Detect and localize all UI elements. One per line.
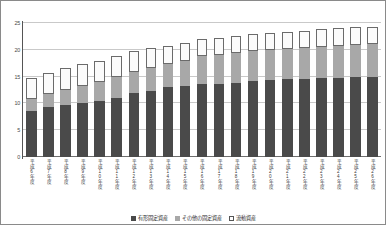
y-tick-label-15: 15: [2, 75, 20, 80]
bar-segment-tangible: [367, 77, 378, 157]
bar-segment-current: [316, 29, 327, 46]
bar-segment-current: [94, 61, 105, 82]
bar-0: [26, 78, 37, 157]
bar-segment-other: [367, 44, 378, 76]
bar-segment-tangible: [282, 79, 293, 157]
bar-segment-other: [43, 94, 54, 107]
chart-legend: 有形固定資産その他の固定資産流動資産: [1, 215, 385, 221]
bar-segment-current: [333, 28, 344, 46]
bar-segment-other: [282, 49, 293, 80]
bar-segment-tangible: [197, 84, 208, 157]
bar-segment-other: [316, 47, 327, 79]
bar-12: [231, 36, 242, 157]
bar-segment-current: [350, 27, 361, 45]
bar-segment-current: [43, 73, 54, 93]
bar-segment-current: [60, 68, 71, 90]
x-tick-label-10: 平成16年度: [199, 159, 204, 189]
bar-segment-tangible: [316, 78, 327, 157]
bar-segment-other: [350, 45, 361, 77]
bar-segment-tangible: [214, 84, 225, 157]
bar-1: [43, 73, 54, 157]
x-tick-label-17: 平成23年度: [319, 159, 324, 189]
bar-5: [111, 56, 122, 157]
legend-item-0: 有形固定資産: [131, 215, 168, 221]
bar-14: [265, 33, 276, 157]
bar-segment-current: [111, 56, 122, 77]
bar-segment-tangible: [333, 78, 344, 157]
bar-segment-current: [180, 43, 191, 61]
y-tick-label-5: 5: [2, 128, 20, 133]
x-tick-label-5: 平成11年度: [114, 159, 119, 189]
x-tick-label-3: 平成9年度: [80, 159, 85, 184]
bar-segment-current: [367, 27, 378, 45]
x-tick-label-13: 平成19年度: [251, 159, 256, 189]
bar-segment-tangible: [180, 86, 191, 157]
bar-segment-other: [180, 61, 191, 87]
x-tick-label-18: 平成24年度: [336, 159, 341, 189]
x-axis-tick-labels: 平成6年度平成7年度平成8年度平成9年度平成10年度平成11年度平成12年度平成…: [23, 158, 381, 204]
bar-segment-other: [94, 82, 105, 101]
x-tick-label-6: 平成12年度: [131, 159, 136, 189]
bar-8: [163, 46, 174, 157]
bar-16: [299, 31, 310, 157]
bar-segment-tangible: [60, 105, 71, 157]
bar-segment-tangible: [146, 91, 157, 157]
bar-6: [129, 51, 140, 157]
bar-segment-other: [111, 77, 122, 98]
bar-segment-other: [60, 90, 71, 105]
x-tick-label-19: 平成25年度: [353, 159, 358, 189]
bar-segment-current: [214, 38, 225, 55]
bar-segment-other: [214, 55, 225, 84]
bar-segment-tangible: [163, 87, 174, 157]
x-tick-label-20: 平成26年度: [370, 159, 375, 189]
bar-segment-other: [333, 46, 344, 78]
bar-13: [248, 34, 259, 157]
bar-9: [180, 43, 191, 157]
bar-segment-current: [163, 46, 174, 64]
bar-segment-current: [129, 51, 140, 72]
y-tick-label-10: 10: [2, 101, 20, 106]
bar-20: [367, 27, 378, 157]
bar-segment-other: [231, 53, 242, 82]
bar-segment-tangible: [129, 93, 140, 157]
bar-segment-current: [77, 64, 88, 86]
x-tick-label-15: 平成21年度: [285, 159, 290, 189]
bar-segment-current: [282, 32, 293, 49]
bar-segment-tangible: [77, 103, 88, 157]
bar-7: [146, 48, 157, 157]
legend-swatch-tangible: [131, 216, 136, 221]
bar-segment-tangible: [299, 79, 310, 157]
x-tick-label-4: 平成10年度: [97, 159, 102, 189]
x-tick-label-2: 平成8年度: [63, 159, 68, 184]
bar-10: [197, 39, 208, 157]
bar-segment-other: [146, 68, 157, 91]
y-tick-label-0: 0: [2, 155, 20, 160]
bar-11: [214, 38, 225, 158]
bar-segment-current: [26, 78, 37, 99]
bar-19: [350, 27, 361, 157]
bar-segment-tangible: [94, 101, 105, 157]
bar-segment-current: [248, 34, 259, 51]
x-tick-label-16: 平成22年度: [302, 159, 307, 189]
bar-segment-tangible: [265, 80, 276, 157]
legend-swatch-other: [175, 216, 180, 221]
x-tick-label-11: 平成17年度: [216, 159, 221, 189]
bar-2: [60, 68, 71, 157]
bar-segment-current: [197, 39, 208, 56]
bar-segment-tangible: [350, 77, 361, 157]
bar-segment-other: [77, 86, 88, 103]
bar-segment-tangible: [26, 111, 37, 157]
x-tick-label-1: 平成7年度: [46, 159, 51, 184]
bar-4: [94, 61, 105, 157]
legend-swatch-current: [229, 216, 234, 221]
bar-segment-other: [129, 72, 140, 93]
y-axis-tick-labels: 0510152025: [1, 23, 20, 157]
legend-label-1: その他の固定資産: [182, 215, 222, 221]
legend-label-2: 流動資産: [236, 215, 256, 221]
bar-segment-tangible: [43, 107, 54, 157]
bar-segment-current: [146, 48, 157, 68]
bar-segment-other: [26, 99, 37, 111]
bar-segment-current: [231, 36, 242, 53]
bar-segment-other: [248, 51, 259, 80]
bar-segment-current: [299, 31, 310, 48]
